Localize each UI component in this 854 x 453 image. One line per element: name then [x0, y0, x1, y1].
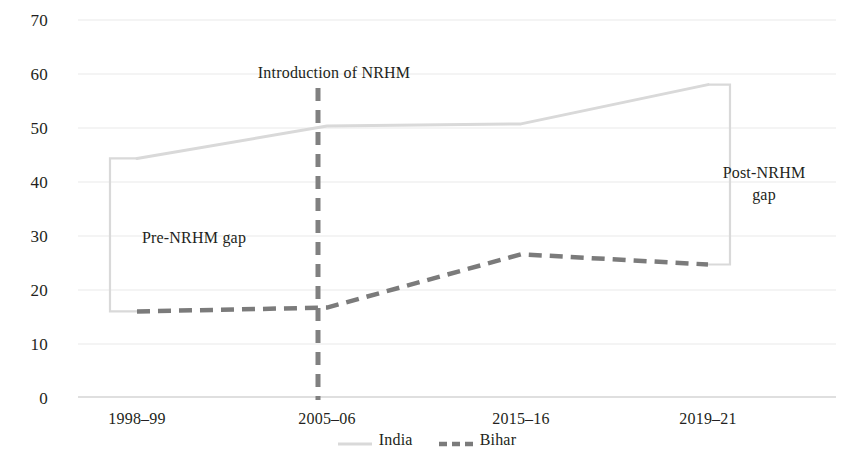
series-line-bihar — [137, 254, 708, 311]
x-tick-label-2019-21: 2019–21 — [679, 411, 736, 427]
legend-swatch-bihar-icon — [439, 435, 473, 445]
legend-entry-bihar[interactable]: Bihar — [439, 432, 517, 448]
annotation-post-nrhm-gap-line1: Post-NRHM — [723, 163, 806, 183]
legend-label-bihar: Bihar — [480, 432, 517, 448]
y-tick-label-0: 0 — [2, 390, 48, 407]
y-tick-label-10: 10 — [2, 336, 48, 353]
y-tick-label-20: 20 — [2, 282, 48, 299]
x-tick-label-1998-99: 1998–99 — [108, 411, 165, 427]
annotation-post-nrhm-gap-line2: gap — [752, 185, 776, 205]
legend-label-india: India — [379, 432, 413, 448]
annotation-introduction-of-nrhm: Introduction of NRHM — [258, 63, 410, 83]
y-tick-label-50: 50 — [2, 120, 48, 137]
chart-legend: India Bihar — [0, 432, 854, 448]
chart-container: 70 60 50 40 30 20 10 0 1998–99 2005–06 2… — [0, 0, 854, 453]
y-tick-label-60: 60 — [2, 66, 48, 83]
y-tick-label-40: 40 — [2, 174, 48, 191]
pre-nrhm-gap-bracket — [110, 158, 137, 311]
x-tick-label-2005-06: 2005–06 — [298, 411, 355, 427]
x-tick-label-2015-16: 2015–16 — [492, 411, 549, 427]
legend-entry-india[interactable]: India — [338, 432, 413, 448]
y-tick-label-30: 30 — [2, 228, 48, 245]
legend-swatch-india-icon — [338, 435, 372, 445]
chart-plot-area — [0, 0, 854, 453]
annotation-pre-nrhm-gap: Pre-NRHM gap — [142, 228, 246, 248]
series-line-india — [137, 85, 708, 159]
y-tick-label-70: 70 — [2, 12, 48, 29]
